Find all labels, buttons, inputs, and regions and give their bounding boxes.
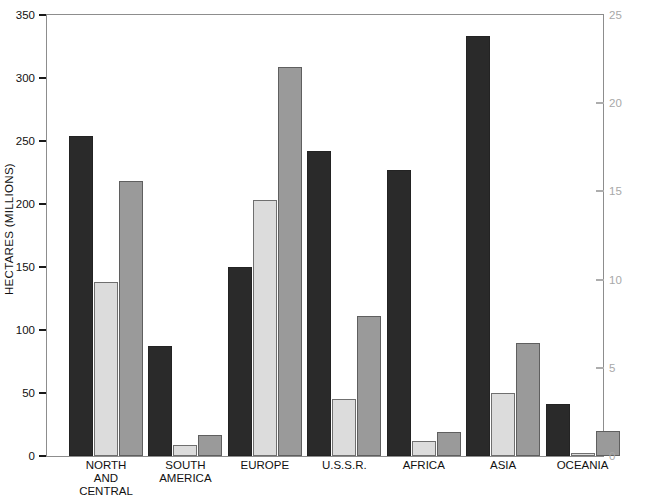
- secondary-y-axis-tick-label: 25: [609, 7, 622, 23]
- bar-group: [466, 15, 540, 456]
- bar: [332, 399, 356, 456]
- bar: [148, 346, 172, 456]
- x-axis-category-label: ASIA: [463, 459, 542, 472]
- bar-group: [69, 15, 143, 456]
- x-axis-category-label: NORTH AND CENTRAL: [66, 459, 145, 498]
- y-axis-tick-mark: [39, 266, 46, 268]
- x-axis-category-label: SOUTH AMERICA: [146, 459, 225, 485]
- bar: [69, 136, 93, 456]
- y-axis-tick-label: 50: [22, 385, 35, 401]
- secondary-y-axis-tick-mark: [596, 367, 604, 369]
- y-axis-tick-mark: [39, 140, 46, 142]
- bar-group: [387, 15, 461, 456]
- bar: [94, 282, 118, 456]
- y-axis-tick-mark: [39, 329, 46, 331]
- x-axis-category-labels: NORTH AND CENTRALSOUTH AMERICAEUROPEU.S.…: [47, 459, 603, 485]
- y-axis-tick-label: 300: [16, 70, 35, 86]
- right-axis: 0510152025: [604, 14, 647, 457]
- bar-group: [228, 15, 302, 456]
- secondary-y-axis-tick-label: 20: [609, 95, 622, 111]
- y-axis-tick-mark: [39, 77, 46, 79]
- bar: [546, 404, 570, 456]
- bar: [357, 316, 381, 456]
- secondary-y-axis-tick-mark: [596, 190, 604, 192]
- secondary-y-axis-tick-mark: [596, 102, 604, 104]
- y-axis-tick-label: 100: [16, 322, 35, 338]
- secondary-y-axis-tick-mark: [596, 279, 604, 281]
- bar: [491, 393, 515, 456]
- bar: [119, 181, 143, 456]
- bar: [307, 151, 331, 456]
- left-axis: 050100150200250300350: [0, 14, 46, 457]
- x-axis-category-label: AFRICA: [384, 459, 463, 472]
- y-axis-tick-label: 150: [16, 259, 35, 275]
- bar: [387, 170, 411, 456]
- y-axis-tick-label: 0: [29, 448, 35, 464]
- bar: [412, 441, 436, 456]
- y-axis-tick-mark: [39, 14, 46, 16]
- x-axis-category-label: U.S.S.R.: [305, 459, 384, 472]
- y-axis-tick-label: 200: [16, 196, 35, 212]
- bars-layer: [47, 15, 603, 456]
- bar: [253, 200, 277, 456]
- bar: [173, 445, 197, 456]
- bar-group: [148, 15, 222, 456]
- x-axis-category-label: OCEANIA: [543, 459, 622, 472]
- y-axis-tick-mark: [39, 455, 46, 457]
- bar: [278, 67, 302, 456]
- y-axis-tick-mark: [39, 203, 46, 205]
- bar-group: [307, 15, 381, 456]
- bar: [437, 432, 461, 456]
- y-axis-tick-label: 250: [16, 133, 35, 149]
- bar: [571, 453, 595, 456]
- bar: [198, 435, 222, 456]
- secondary-y-axis-tick-label: 10: [609, 272, 622, 288]
- secondary-y-axis-tick-label: 5: [609, 360, 615, 376]
- bar: [228, 267, 252, 456]
- y-axis-tick-mark: [39, 392, 46, 394]
- bar: [466, 36, 490, 456]
- x-axis-category-label: EUROPE: [225, 459, 304, 472]
- bar: [516, 343, 540, 456]
- secondary-y-axis-tick-label: 15: [609, 183, 622, 199]
- y-axis-tick-label: 350: [16, 7, 35, 23]
